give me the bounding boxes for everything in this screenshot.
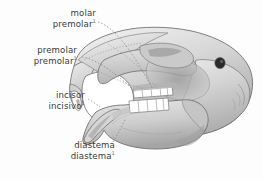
label-diastema-spanish-text: diastema [71, 151, 112, 161]
label-diastema-english: diastema [71, 140, 115, 150]
label-diastema: diastema diastema1 [71, 140, 115, 162]
lower-tooth-row [129, 98, 169, 113]
label-premolar: premolar premolar1 [34, 45, 77, 67]
label-premolar-english: premolar [34, 45, 77, 55]
label-molar-spanish: premolar1 [53, 18, 96, 29]
orbital-foramen [215, 57, 225, 68]
label-incisor-superscript: 1 [82, 100, 85, 106]
label-incisor-spanish: incisivo1 [48, 100, 85, 111]
label-incisor-spanish-text: incisivo [48, 101, 81, 111]
rodent-skull-illustration [0, 0, 263, 180]
orbital-foramen-highlight [220, 60, 223, 63]
label-incisor-english: incisor [48, 90, 85, 100]
label-molar: molar premolar1 [53, 8, 96, 30]
label-diastema-spanish: diastema1 [71, 150, 115, 161]
label-molar-superscript: 1 [93, 18, 96, 24]
label-incisor: incisor incisivo1 [48, 90, 85, 112]
label-diastema-superscript: 1 [112, 150, 115, 156]
label-premolar-spanish-text: premolar [34, 56, 74, 66]
label-molar-english: molar [53, 8, 96, 18]
label-molar-spanish-text: premolar [53, 19, 93, 29]
figure-canvas: molar premolar1 premolar premolar1 incis… [0, 0, 263, 180]
label-premolar-superscript: 1 [74, 55, 77, 61]
label-premolar-spanish: premolar1 [34, 55, 77, 66]
